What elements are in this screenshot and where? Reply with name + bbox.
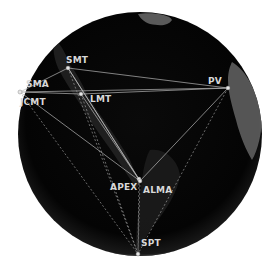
station-label-sma: SMA [26, 79, 49, 89]
station-dot-alma [138, 179, 142, 183]
station-label-lmt: LMT [90, 94, 112, 104]
station-label-spt: SPT [141, 238, 161, 248]
station-dot-sma [18, 90, 22, 94]
station-label-alma: ALMA [143, 185, 172, 195]
globe-svg: PVSMTSMAJCMTLMTAPEXALMASPT [0, 0, 273, 264]
station-label-smt: SMT [66, 55, 89, 65]
station-dot-lmt [79, 92, 83, 96]
station-label-apex: APEX [110, 182, 137, 192]
station-label-jcmt: JCMT [19, 97, 47, 107]
station-dot-pv [226, 86, 230, 90]
station-dot-spt [136, 252, 140, 256]
station-dot-smt [66, 66, 70, 70]
station-label-pv: PV [208, 76, 222, 86]
globe-diagram: PVSMTSMAJCMTLMTAPEXALMASPT [0, 0, 273, 264]
